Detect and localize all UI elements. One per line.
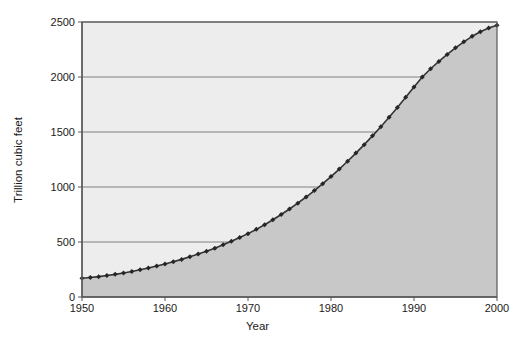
chart-container: 05001000150020002500 1950196019701980199…	[0, 0, 515, 345]
y-tick-label: 1000	[51, 181, 75, 193]
x-tick-label: 1970	[236, 302, 260, 314]
y-axis-tick-labels: 05001000150020002500	[51, 16, 82, 303]
x-tick-label: 2000	[485, 302, 509, 314]
y-tick-label: 500	[57, 236, 75, 248]
y-axis-title-text: Trillion cubic feet	[12, 117, 24, 203]
x-tick-label: 1980	[319, 302, 343, 314]
y-tick-label: 2000	[51, 71, 75, 83]
y-tick-label: 2500	[51, 16, 75, 28]
x-tick-label: 1990	[402, 302, 426, 314]
x-axis-title: Year	[0, 320, 515, 332]
y-axis-title: Trillion cubic feet	[10, 72, 26, 247]
x-tick-label: 1960	[153, 302, 177, 314]
chart-plot-svg: 05001000150020002500 1950196019701980199…	[0, 0, 515, 345]
x-tick-label: 1950	[70, 302, 94, 314]
y-tick-label: 1500	[51, 126, 75, 138]
x-axis-tick-labels: 195019601970198019902000	[70, 297, 509, 314]
